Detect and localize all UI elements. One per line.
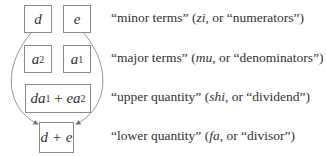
upper-op: + — [50, 90, 66, 107]
label-pre: “major terms” ( — [111, 50, 196, 65]
a1-sub: 1 — [78, 54, 83, 65]
label-post: , or “dividend”) — [225, 89, 310, 104]
box-a2: a2 — [24, 45, 52, 73]
label-term: shi — [209, 89, 225, 104]
box-a1: a1 — [63, 45, 91, 73]
lower-text: d + e — [41, 129, 73, 146]
label-post: , or “numerators”) — [206, 10, 305, 25]
box-d: d — [24, 5, 52, 33]
a1-base: a — [71, 51, 79, 68]
label-lower-quantity: “lower quantity” (fa, or “divisor”) — [111, 128, 295, 144]
label-term: zi — [196, 10, 205, 25]
box-lower-quantity: d + e — [39, 122, 74, 153]
label-term: fa — [209, 128, 220, 143]
label-term: mu — [196, 50, 213, 65]
box-upper-quantity: da1 + ea2 — [25, 84, 91, 113]
box-d-text: d — [34, 11, 42, 28]
upper-t1: da — [30, 90, 45, 107]
label-pre: “upper quantity” ( — [111, 89, 209, 104]
box-e-text: e — [74, 11, 81, 28]
box-e: e — [63, 5, 91, 33]
label-major-terms: “major terms” (mu, or “denominators”) — [111, 50, 324, 66]
label-post: , or “divisor”) — [220, 128, 295, 143]
a2-base: a — [32, 51, 40, 68]
label-minor-terms: “minor terms” (zi, or “numerators”) — [111, 10, 304, 26]
label-pre: “lower quantity” ( — [111, 128, 209, 143]
a2-sub: 2 — [39, 54, 44, 65]
label-post: , or “denominators”) — [212, 50, 323, 65]
label-pre: “minor terms” ( — [111, 10, 196, 25]
upper-s2: 2 — [81, 93, 86, 104]
upper-t2: ea — [66, 90, 80, 107]
label-upper-quantity: “upper quantity” (shi, or “dividend”) — [111, 89, 310, 105]
